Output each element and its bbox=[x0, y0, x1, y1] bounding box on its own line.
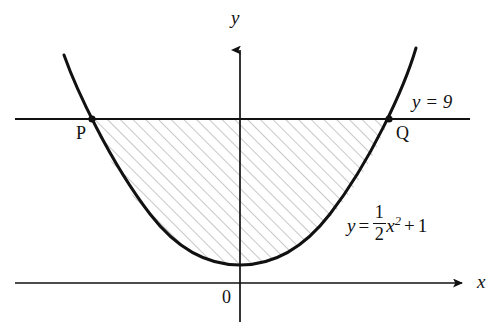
point-label-p: P bbox=[76, 124, 86, 142]
plot-canvas bbox=[0, 0, 495, 328]
curve-eq-equals: = bbox=[355, 215, 372, 236]
line-equation-label: y = 9 bbox=[412, 92, 452, 111]
curve-eq-constant: 1 bbox=[418, 215, 428, 236]
point-marker-p bbox=[88, 115, 95, 122]
curve-eq-variable: x bbox=[386, 215, 394, 236]
point-marker-q bbox=[385, 115, 392, 122]
line-equation-y: y = 9 bbox=[412, 91, 452, 112]
math-figure: y x 0 P Q y = 9 y=12x2+1 bbox=[0, 0, 495, 328]
curve-eq-plus: + bbox=[401, 215, 418, 236]
curve-eq-denominator: 2 bbox=[373, 225, 386, 244]
origin-label: 0 bbox=[222, 288, 231, 306]
curve-equation-label: y=12x2+1 bbox=[347, 203, 427, 244]
point-label-q: Q bbox=[396, 124, 409, 142]
x-axis-label: x bbox=[477, 272, 485, 291]
y-axis-label: y bbox=[231, 8, 239, 27]
curve-eq-numerator: 1 bbox=[373, 203, 386, 222]
curve-eq-fraction: 12 bbox=[373, 203, 386, 244]
